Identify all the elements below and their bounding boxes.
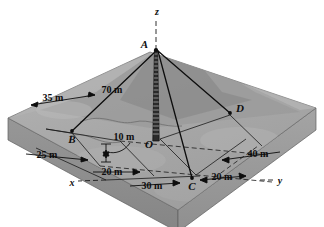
- label-point-D: D: [235, 102, 244, 114]
- point-marker-A: [154, 48, 158, 52]
- dim-label-30m: 30 m: [142, 180, 164, 191]
- dim-label-25m: 25 m: [37, 149, 59, 160]
- label-point-C: C: [188, 180, 196, 192]
- dim-label-40m: 40 m: [248, 148, 270, 159]
- dim-label-10m: 10 m: [114, 131, 136, 142]
- dim-label-35m: 35 m: [43, 92, 65, 103]
- label-point-A: A: [140, 38, 148, 50]
- dim-label-20m-x: 20 m: [102, 166, 124, 177]
- label-axis-x: x: [69, 177, 75, 188]
- point-marker-D: [228, 111, 232, 115]
- label-point-O: O: [145, 138, 153, 150]
- figure-canvas: A O B C D z x y 70 m 35 m 25 m 10 m 20 m…: [0, 0, 324, 227]
- dim-label-70m: 70 m: [102, 84, 124, 95]
- tower-diagram-svg: A O B C D z x y 70 m 35 m 25 m 10 m 20 m…: [0, 0, 324, 227]
- dim-label-20m-y: 20 m: [212, 171, 234, 182]
- terrain-patch-d: [36, 101, 92, 119]
- label-point-B: B: [67, 133, 75, 145]
- label-axis-y: y: [277, 175, 283, 186]
- terrain-block: [8, 52, 316, 227]
- label-axis-z: z: [154, 6, 159, 17]
